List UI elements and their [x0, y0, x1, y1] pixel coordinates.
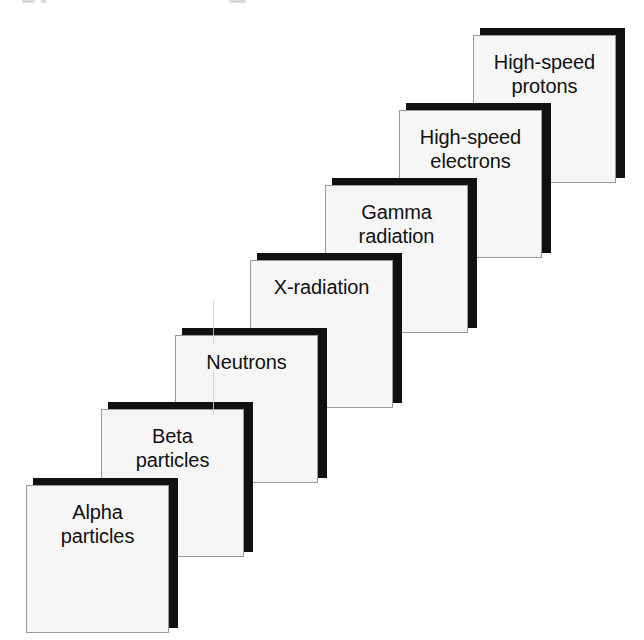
- scan-artifact-top: [0, 0, 644, 7]
- scan-blot: [22, 0, 35, 3]
- step-label-high-speed-electrons: High-speed electrons: [420, 125, 521, 174]
- step-label-gamma-radiation: Gamma radiation: [359, 200, 435, 249]
- step-label-neutrons: Neutrons: [206, 350, 286, 374]
- scan-blot: [41, 0, 46, 3]
- step-label-x-radiation: X-radiation: [274, 275, 370, 299]
- step-label-high-speed-protons: High-speed protons: [494, 50, 595, 99]
- step-label-beta-particles: Beta particles: [136, 424, 210, 473]
- scan-blot: [229, 0, 246, 3]
- radiation-staircase-diagram: High-speed protonsHigh-speed electronsGa…: [0, 0, 644, 640]
- step-label-alpha-particles: Alpha particles: [61, 500, 135, 549]
- step-box-face: Alpha particles: [26, 485, 169, 633]
